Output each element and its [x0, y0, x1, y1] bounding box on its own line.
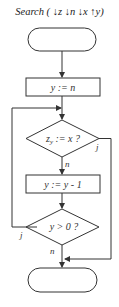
edge-cond1-yes	[65, 139, 111, 260]
cond2-no-label: n	[50, 246, 55, 256]
decrement-label: y := y - 1	[43, 179, 81, 190]
edge-loop-back	[12, 108, 61, 227]
flowchart: y := n zy := x ? j n y := y - 1 y > 0 ? …	[0, 0, 119, 307]
init-label: y := n	[50, 82, 76, 93]
cond1-no-label: n	[65, 159, 70, 169]
cond2-label: y > 0 ?	[49, 221, 79, 232]
end-terminator	[28, 268, 97, 292]
cond1-yes-label: j	[95, 142, 99, 152]
cond2-yes-label: j	[19, 230, 23, 240]
cond1-label: zy := x ?	[45, 133, 80, 146]
start-terminator	[28, 28, 96, 51]
